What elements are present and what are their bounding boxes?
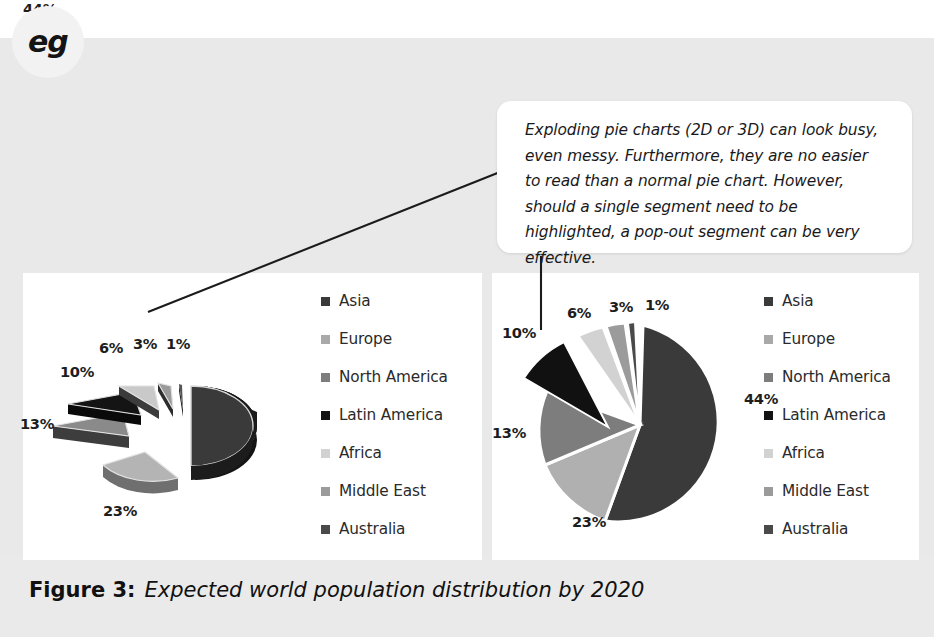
legend-label-middle-east: Middle East [782, 482, 869, 500]
legend-item-latin-america[interactable]: Latin America [321, 396, 448, 434]
legend-item-north-america[interactable]: North America [764, 358, 891, 396]
left-label-latin-america: 10% [60, 363, 94, 380]
legend-item-australia[interactable]: Australia [764, 510, 891, 548]
legend-label-north-america: North America [339, 368, 448, 386]
legend-label-europe: Europe [339, 330, 392, 348]
legend-label-africa: Africa [782, 444, 825, 462]
left-chart-legend: Asia Europe North America Latin America … [321, 282, 448, 548]
document-page: eg Exploding pie charts (2D or 3D) can l… [0, 0, 934, 637]
legend-swatch-north-america-icon [764, 373, 773, 382]
legend-swatch-middle-east-icon [764, 487, 773, 496]
legend-swatch-middle-east-icon [321, 487, 330, 496]
legend-item-middle-east[interactable]: Middle East [321, 472, 448, 510]
right-label-africa: 6% [567, 304, 591, 321]
legend-item-north-america[interactable]: North America [321, 358, 448, 396]
legend-label-asia: Asia [339, 292, 370, 310]
right-label-australia: 1% [645, 296, 669, 313]
legend-label-europe: Europe [782, 330, 835, 348]
callout-box: Exploding pie charts (2D or 3D) can look… [497, 101, 912, 253]
legend-item-australia[interactable]: Australia [321, 510, 448, 548]
right-label-middle-east: 3% [609, 298, 633, 315]
eg-badge: eg [12, 6, 84, 78]
eg-badge-label: eg [28, 24, 68, 59]
legend-item-asia[interactable]: Asia [321, 282, 448, 320]
figure-caption-label: Figure 3: [29, 578, 135, 602]
left-chart-panel: 44% 23% 13% 10% 6% 3% 1% Asia Europe Nor… [23, 273, 482, 560]
legend-item-europe[interactable]: Europe [321, 320, 448, 358]
right-chart-panel: 44% 23% 13% 10% 6% 3% 1% Asia Europe Nor… [492, 273, 919, 560]
left-slice-australia [179, 384, 183, 417]
legend-item-latin-america[interactable]: Latin America [764, 396, 891, 434]
legend-label-middle-east: Middle East [339, 482, 426, 500]
left-label-middle-east: 3% [133, 335, 157, 352]
left-label-europe: 23% [103, 502, 137, 519]
right-pie-chart [492, 273, 772, 560]
left-label-australia: 1% [166, 335, 190, 352]
right-label-europe: 23% [572, 513, 606, 530]
legend-swatch-asia-icon [764, 297, 773, 306]
legend-item-europe[interactable]: Europe [764, 320, 891, 358]
callout-text: Exploding pie charts (2D or 3D) can look… [525, 118, 885, 271]
legend-label-asia: Asia [782, 292, 813, 310]
legend-swatch-australia-icon [764, 525, 773, 534]
legend-item-africa[interactable]: Africa [321, 434, 448, 472]
legend-label-latin-america: Latin America [339, 406, 443, 424]
legend-label-latin-america: Latin America [782, 406, 886, 424]
legend-item-asia[interactable]: Asia [764, 282, 891, 320]
left-slice-europe [103, 452, 178, 493]
legend-label-north-america: North America [782, 368, 891, 386]
legend-item-africa[interactable]: Africa [764, 434, 891, 472]
legend-label-africa: Africa [339, 444, 382, 462]
left-label-africa: 6% [99, 339, 123, 356]
legend-swatch-latin-america-icon [764, 411, 773, 420]
right-label-north-america: 13% [492, 424, 526, 441]
legend-swatch-asia-icon [321, 297, 330, 306]
legend-swatch-africa-icon [764, 449, 773, 458]
legend-swatch-north-america-icon [321, 373, 330, 382]
legend-item-middle-east[interactable]: Middle East [764, 472, 891, 510]
legend-label-australia: Australia [339, 520, 405, 538]
left-label-north-america: 13% [20, 415, 54, 432]
right-label-latin-america: 10% [502, 324, 536, 341]
left-slice-middle-east [158, 383, 173, 417]
legend-label-australia: Australia [782, 520, 848, 538]
legend-swatch-latin-america-icon [321, 411, 330, 420]
left-pie-chart [23, 273, 323, 560]
legend-swatch-africa-icon [321, 449, 330, 458]
legend-swatch-europe-icon [764, 335, 773, 344]
figure-caption: Figure 3:Expected world population distr… [29, 578, 644, 602]
legend-swatch-australia-icon [321, 525, 330, 534]
figure-caption-title: Expected world population distribution b… [144, 578, 644, 602]
left-slice-asia [191, 386, 257, 480]
legend-swatch-europe-icon [321, 335, 330, 344]
right-chart-legend: Asia Europe North America Latin America … [764, 282, 891, 548]
